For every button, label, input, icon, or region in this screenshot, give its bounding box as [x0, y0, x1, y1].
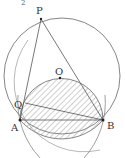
point-P	[40, 18, 42, 20]
label-A: A	[10, 122, 19, 133]
label-Q: Q	[14, 99, 22, 110]
geometry-diagram: 2 P O Q A B	[0, 0, 125, 158]
hatched-region	[20, 79, 103, 139]
label-P: P	[36, 5, 43, 16]
label-O: O	[55, 66, 63, 77]
point-O	[59, 77, 62, 80]
label-B: B	[107, 120, 114, 131]
point-A	[19, 119, 22, 122]
point-B	[102, 119, 105, 122]
top-fragment-text: 2	[21, 0, 25, 7]
